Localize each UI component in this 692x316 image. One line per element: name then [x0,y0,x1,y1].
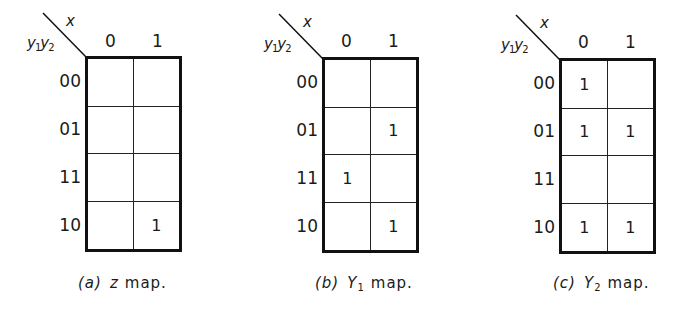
kmap-grid: 1 1 1 [322,57,419,253]
caption-word: map. [371,274,413,292]
row-variables-label: y1y2 [264,37,291,56]
kmap-a: x y1y2 0 1 00 01 11 10 1 (a)zmap. [0,0,230,316]
cell-11-x1 [608,156,654,204]
column-variable-label: x [540,16,549,31]
column-label-0: 0 [560,34,607,51]
row-label-11: 11 [525,171,555,188]
cell-01-x0 [88,107,134,155]
row-label-10: 10 [525,219,555,236]
row-label-10: 10 [51,217,81,234]
cell-11-x0 [88,154,134,202]
column-label-1: 1 [370,33,417,50]
kmap-grid: 1 [85,56,182,252]
column-variable-label: x [66,14,75,29]
caption-function: Y1 [347,274,365,292]
row-label-11: 11 [288,170,318,187]
row-variables-label: y1y2 [501,38,528,57]
column-label-1: 1 [607,34,654,51]
cell-01-x1: 1 [608,109,654,157]
row-label-00: 00 [525,75,555,92]
cell-00-x1 [134,59,180,107]
caption-word: map. [608,274,650,292]
caption-function: Y2 [584,274,602,292]
cell-10-x1: 1 [371,203,417,251]
cell-00-x0 [325,60,371,108]
cell-00-x1 [371,60,417,108]
cell-00-x0: 1 [562,61,608,109]
caption-word: map. [125,274,167,292]
cell-01-x0: 1 [562,109,608,157]
cell-10-x1: 1 [608,204,654,252]
cell-11-x0 [562,156,608,204]
row-label-01: 01 [525,123,555,140]
kmap-c: x y1y2 0 1 00 01 11 10 1 1 1 1 1 (c)Y2ma… [473,0,692,316]
caption-function: z [110,274,119,292]
cell-11-x0: 1 [325,155,371,203]
cell-10-x1: 1 [134,202,180,250]
kmap-grid: 1 1 1 1 1 [559,58,656,254]
row-label-10: 10 [288,218,318,235]
column-label-1: 1 [134,33,181,50]
column-variable-label: x [303,15,312,30]
row-label-01: 01 [288,122,318,139]
row-variables-label: y1y2 [27,36,54,55]
caption-b: (b)Y1map. [315,275,413,296]
cell-00-x1 [608,61,654,109]
cell-01-x1: 1 [371,108,417,156]
cell-11-x1 [371,155,417,203]
cell-00-x0 [88,59,134,107]
caption-label: (c) [553,274,576,292]
cell-11-x1 [134,154,180,202]
row-label-11: 11 [51,169,81,186]
caption-label: (b) [315,274,339,292]
cell-10-x0: 1 [562,204,608,252]
column-label-0: 0 [323,33,370,50]
caption-label: (a) [78,274,102,292]
column-label-0: 0 [87,33,134,50]
kmap-b: x y1y2 0 1 00 01 11 10 1 1 1 (b)Y1map. [236,0,466,316]
cell-01-x0 [325,108,371,156]
row-label-00: 00 [51,73,81,90]
cell-01-x1 [134,107,180,155]
caption-c: (c)Y2map. [553,275,650,296]
row-label-00: 00 [288,74,318,91]
caption-a: (a)zmap. [78,275,167,296]
cell-10-x0 [88,202,134,250]
cell-10-x0 [325,203,371,251]
row-label-01: 01 [51,121,81,138]
